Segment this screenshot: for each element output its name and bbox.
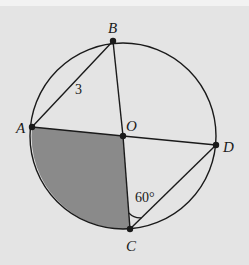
point-c (127, 226, 133, 232)
label-angle-60: 60° (135, 190, 155, 205)
segment-od (123, 136, 216, 145)
segment-bo (113, 41, 123, 136)
label-o: O (126, 118, 137, 134)
label-d: D (222, 139, 234, 155)
label-a: A (15, 120, 26, 136)
geometry-diagram: A B O C D 3 60° (0, 0, 249, 265)
point-d (213, 142, 219, 148)
label-c: C (126, 238, 137, 254)
label-side-ab: 3 (75, 82, 82, 97)
segment-cd (130, 145, 216, 229)
point-a (29, 124, 35, 130)
segment-ab (32, 41, 113, 127)
angle-arc-c (129, 213, 142, 218)
label-b: B (108, 20, 117, 36)
shaded-sector-aoc (32, 127, 130, 229)
point-b (110, 38, 116, 44)
